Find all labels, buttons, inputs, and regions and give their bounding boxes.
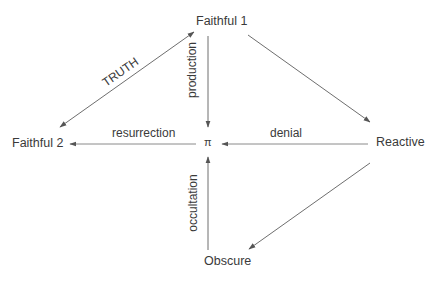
edge-label-production: production (185, 42, 199, 98)
edge-label-resurrection: resurrection (112, 126, 175, 140)
node-faithful-1: Faithful 1 (196, 14, 247, 28)
edge-label-denial: denial (270, 126, 302, 140)
reactive-to-obscure-arrow (249, 163, 370, 249)
node-pi: π (204, 136, 212, 148)
faithful1-to-reactive-arrow (248, 35, 370, 122)
truth-arrow (60, 32, 194, 127)
node-reactive: Reactive (376, 135, 425, 149)
diagram-canvas (0, 0, 435, 281)
node-obscure: Obscure (204, 254, 251, 268)
edge-label-occultation: occultation (186, 174, 200, 231)
node-faithful-2: Faithful 2 (12, 136, 63, 150)
